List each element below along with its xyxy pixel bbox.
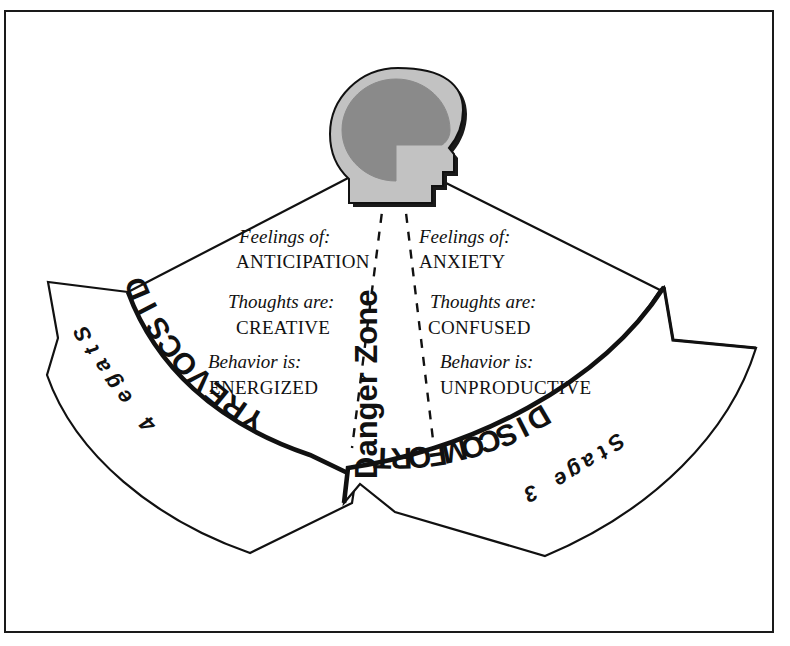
right-row-1-label: Thoughts are:	[430, 292, 536, 311]
head-profile-icon	[330, 68, 467, 207]
right-row-2-value: UNPRODUCTIVE	[440, 378, 591, 397]
left-row-0-value: ANTICIPATION	[236, 252, 370, 271]
diagram-page: Feelings of: ANTICIPATION Thoughts are: …	[0, 0, 790, 646]
right-row-1-value: CONFUSED	[428, 318, 531, 337]
right-row-2-label: Behavior is:	[440, 352, 533, 371]
left-row-2-label: Behavior is:	[208, 352, 301, 371]
left-row-1-value: CREATIVE	[236, 318, 330, 337]
diagram-canvas	[0, 0, 790, 646]
right-row-0-value: ANXIETY	[419, 252, 506, 271]
arc-letter: T	[372, 441, 392, 476]
left-row-0-label: Feelings of:	[239, 227, 330, 246]
arc-letter: R	[389, 441, 413, 476]
right-row-0-label: Feelings of:	[419, 227, 510, 246]
left-row-1-label: Thoughts are:	[228, 292, 334, 311]
